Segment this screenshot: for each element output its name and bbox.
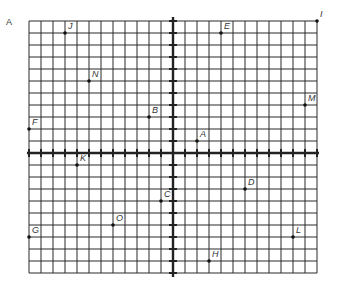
point-label-h: H [212, 250, 219, 259]
point-marker-n [87, 79, 91, 83]
point-marker-f [27, 127, 31, 131]
coordinate-grid [0, 0, 342, 291]
point-label-k: K [80, 154, 86, 163]
point-marker-a [195, 139, 199, 143]
point-marker-o [111, 223, 115, 227]
point-label-d: D [248, 178, 255, 187]
point-marker-c [159, 199, 163, 203]
coordinate-plane-figure: A JNEIMFBAKDCOGLH [0, 0, 342, 291]
point-marker-e [219, 31, 223, 35]
point-marker-g [27, 235, 31, 239]
point-marker-h [207, 259, 211, 263]
point-label-o: O [116, 214, 123, 223]
point-marker-b [147, 115, 151, 119]
point-marker-l [291, 235, 295, 239]
point-label-b: B [152, 106, 158, 115]
point-label-e: E [224, 22, 230, 31]
point-marker-i [315, 19, 319, 23]
point-marker-m [303, 103, 307, 107]
point-label-l: L [296, 226, 301, 235]
point-label-a: A [200, 130, 206, 139]
point-label-j: J [68, 22, 73, 31]
point-marker-k [75, 163, 79, 167]
point-label-m: M [308, 94, 316, 103]
point-label-f: F [32, 118, 38, 127]
point-marker-j [63, 31, 67, 35]
point-label-c: C [164, 190, 171, 199]
point-marker-d [243, 187, 247, 191]
point-label-g: G [32, 226, 39, 235]
point-label-i: I [320, 10, 323, 19]
point-label-n: N [92, 70, 99, 79]
